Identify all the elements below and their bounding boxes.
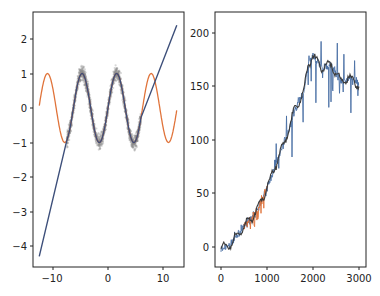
smoothed-line [221, 54, 359, 249]
right-ytick-label: 200 [190, 28, 209, 39]
left-ytick-label: 1 [21, 69, 27, 80]
orange-segment-line [244, 186, 267, 229]
right-xtick-label: 1000 [254, 273, 279, 284]
right-x-ticks: 0 1000 2000 3000 [218, 267, 372, 284]
blue-fit-line [39, 25, 177, 256]
right-ytick-label: 150 [190, 81, 209, 92]
left-xtick-label: 0 [105, 273, 111, 284]
left-plot-area [39, 25, 177, 256]
right-xtick-label: 3000 [346, 273, 371, 284]
left-x-ticks: −10 0 10 [41, 267, 169, 284]
left-ytick-label: −3 [12, 207, 27, 218]
right-xtick-label: 2000 [300, 273, 325, 284]
left-xtick-label: 10 [157, 273, 170, 284]
left-ytick-label: −2 [12, 172, 27, 183]
figure: −4 −3 −2 −1 0 1 2 −10 0 10 0 50 [0, 0, 380, 296]
right-axes: 0 50 100 150 200 0 1000 2000 3000 [190, 12, 372, 284]
right-axes-frame [215, 12, 366, 267]
left-ytick-label: 0 [21, 103, 27, 114]
left-ytick-label: −4 [12, 241, 27, 252]
right-ytick-label: 0 [203, 242, 209, 253]
left-xtick-label: −10 [41, 273, 62, 284]
left-axes: −4 −3 −2 −1 0 1 2 −10 0 10 [12, 12, 184, 284]
right-ytick-label: 50 [196, 188, 209, 199]
right-xtick-label: 0 [218, 273, 224, 284]
right-plot-area [221, 41, 359, 252]
right-ytick-label: 100 [190, 135, 209, 146]
left-ytick-label: 2 [21, 34, 27, 45]
right-y-ticks: 0 50 100 150 200 [190, 28, 215, 253]
left-y-ticks: −4 −3 −2 −1 0 1 2 [12, 34, 33, 252]
left-ytick-label: −1 [12, 138, 27, 149]
left-axes-frame [33, 12, 184, 267]
